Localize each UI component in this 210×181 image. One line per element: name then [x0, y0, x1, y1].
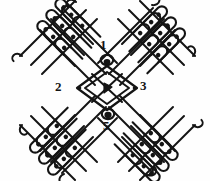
knot-diagram-figure: 1 2 3 5	[0, 0, 210, 181]
upper-right-arm	[98, 0, 198, 85]
reference-label-3: 3	[140, 79, 147, 92]
reference-label-5: 5	[103, 119, 110, 132]
reference-label-1: 1	[100, 38, 107, 51]
center-dot-left	[79, 87, 82, 90]
lower-right-arm	[98, 96, 204, 181]
knot-drawing-canvas	[0, 0, 210, 181]
reference-label-2: 2	[55, 80, 62, 93]
center-dot-right	[133, 87, 136, 90]
knot-linework	[11, 0, 205, 181]
knot-marker-top	[101, 55, 113, 65]
lower-left-arm	[17, 96, 117, 181]
